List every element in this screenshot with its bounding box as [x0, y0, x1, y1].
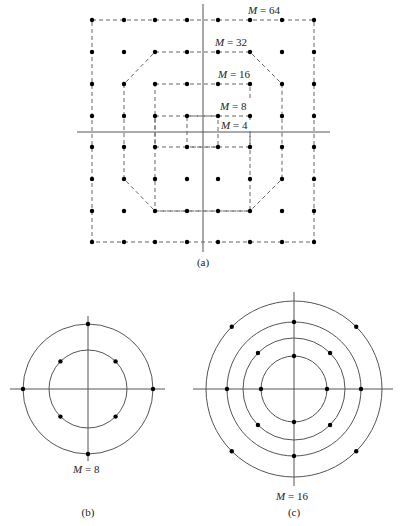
constellation-point [312, 209, 316, 213]
constellation-point [216, 177, 220, 181]
label-m8: M = 8 [219, 100, 247, 112]
constellation-figure: M = 64M = 32M = 16M = 8M = 4 (a) M = 8 (… [0, 0, 403, 526]
label-m16: M = 16 [217, 68, 250, 80]
constellation-point [153, 50, 157, 54]
constellation-point [90, 18, 94, 22]
constellation-point [248, 18, 252, 22]
constellation-point [292, 320, 296, 324]
constellation-point [280, 114, 284, 118]
constellation-point [280, 82, 284, 86]
label-m32: M = 32 [214, 36, 247, 48]
constellation-point [248, 145, 252, 149]
constellation-point [359, 387, 363, 391]
panel-b-axes [10, 316, 165, 461]
label-m64: M = 64 [247, 4, 280, 16]
constellation-point [312, 240, 316, 244]
constellation-point [153, 18, 157, 22]
constellation-point [90, 209, 94, 213]
constellation-point [216, 145, 220, 149]
panel-b-circular-constellation-m8: M = 8 (b) [10, 316, 165, 519]
constellation-point [122, 145, 126, 149]
constellation-point [90, 240, 94, 244]
panel-b-label: M = 8 [72, 463, 100, 475]
panel-a-rectangular-constellations: M = 64M = 32M = 16M = 8M = 4 (a) [77, 4, 330, 269]
constellation-point [230, 325, 234, 329]
constellation-point [86, 322, 90, 326]
constellation-point [122, 114, 126, 118]
constellation-point [248, 82, 252, 86]
constellation-point [354, 449, 358, 453]
constellation-point [151, 387, 155, 391]
constellation-point [280, 145, 284, 149]
constellation-point [122, 50, 126, 54]
constellation-point [153, 145, 157, 149]
panel-b-caption: (b) [82, 506, 95, 519]
constellation-point [292, 420, 296, 424]
constellation-point [185, 177, 189, 181]
constellation-point [312, 18, 316, 22]
constellation-point [90, 177, 94, 181]
constellation-point [312, 82, 316, 86]
constellation-point [280, 240, 284, 244]
constellation-point [122, 18, 126, 22]
constellation-point [328, 351, 332, 355]
constellation-point [256, 351, 260, 355]
constellation-point [292, 454, 296, 458]
constellation-point [230, 449, 234, 453]
constellation-point [185, 145, 189, 149]
constellation-point [225, 387, 229, 391]
constellation-point [312, 114, 316, 118]
constellation-point [86, 452, 90, 456]
panel-c-circular-constellation-m16: M = 16 (c) [193, 292, 393, 519]
constellation-point [248, 209, 252, 213]
constellation-point [216, 209, 220, 213]
constellation-point [259, 387, 263, 391]
constellation-point [90, 50, 94, 54]
constellation-point [113, 359, 117, 363]
constellation-point [153, 82, 157, 86]
panel-c-caption: (c) [288, 506, 301, 519]
constellation-point [248, 177, 252, 181]
constellation-point [216, 114, 220, 118]
constellation-point [90, 145, 94, 149]
constellation-point [292, 354, 296, 358]
constellation-point [122, 209, 126, 213]
constellation-point [312, 145, 316, 149]
panel-a-caption: (a) [197, 256, 210, 269]
constellation-point [325, 387, 329, 391]
constellation-point [328, 423, 332, 427]
constellation-point [185, 18, 189, 22]
constellation-point [354, 325, 358, 329]
constellation-point [185, 82, 189, 86]
constellation-point [256, 423, 260, 427]
constellation-point [185, 209, 189, 213]
constellation-point [216, 18, 220, 22]
constellation-point [90, 82, 94, 86]
constellation-point [153, 209, 157, 213]
constellation-point [248, 50, 252, 54]
constellation-point [185, 114, 189, 118]
constellation-point [153, 114, 157, 118]
constellation-point [122, 82, 126, 86]
panel-c-label: M = 16 [275, 490, 308, 502]
constellation-point [216, 82, 220, 86]
constellation-point [280, 50, 284, 54]
constellation-point [312, 50, 316, 54]
constellation-point [312, 177, 316, 181]
constellation-point [248, 114, 252, 118]
constellation-point [216, 50, 220, 54]
constellation-point [280, 209, 284, 213]
constellation-point [280, 18, 284, 22]
constellation-point [21, 387, 25, 391]
constellation-point [280, 177, 284, 181]
label-m4: M = 4 [220, 119, 248, 131]
constellation-point [90, 114, 94, 118]
constellation-point [153, 240, 157, 244]
constellation-point [122, 240, 126, 244]
constellation-point [58, 359, 62, 363]
constellation-point [113, 414, 117, 418]
constellation-point [185, 50, 189, 54]
constellation-point [185, 240, 189, 244]
constellation-point [216, 240, 220, 244]
constellation-point [248, 240, 252, 244]
